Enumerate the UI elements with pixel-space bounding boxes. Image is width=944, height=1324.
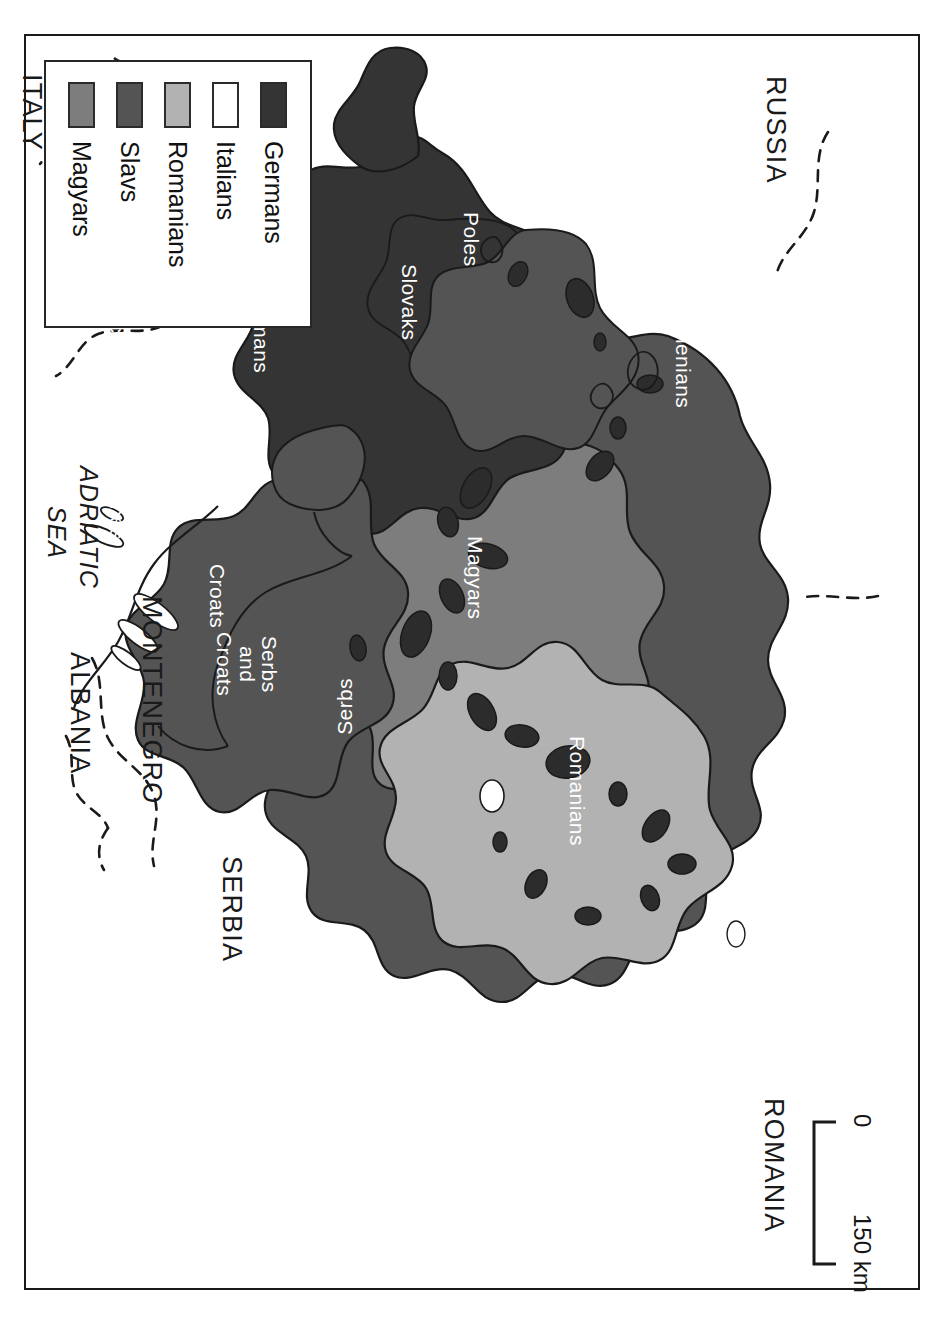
country-label-italy: ITALY (17, 74, 46, 151)
scale-bar-start-label: 0 (848, 1114, 876, 1127)
legend-swatch-slavs (116, 82, 143, 128)
ethnic-label-serbs: Serbs (334, 678, 356, 735)
country-label-romania: ROMANIA (759, 1098, 788, 1232)
legend-row-italians[interactable]: Italians (211, 82, 240, 220)
ethnic-label-slovenes: Slovenes (106, 450, 128, 540)
legend-row-germans[interactable]: Germans (259, 82, 288, 244)
legend-label-italians: Italians (211, 141, 240, 220)
ethnic-label-romanians: Romanians (566, 736, 588, 846)
legend-row-magyars[interactable]: Magyars (67, 82, 96, 237)
legend-label-slavs: Slavs (115, 141, 144, 202)
scale-bar-graphic (790, 1118, 840, 1268)
country-label-russia: RUSSIA (761, 76, 790, 184)
region-germans-tyrol (334, 48, 427, 172)
legend-label-romanians: Romanians (163, 141, 192, 267)
rotated-map-canvas: RUSSIA ROMANIA SERBIA MONTENEGRO ALBANIA… (26, 36, 918, 1288)
enclave-white (727, 921, 745, 947)
map-legend: Germans Italians Romanians Slavs Magyars (44, 60, 312, 328)
country-label-serbia: SERBIA (217, 856, 246, 962)
ethnic-label-poles: Poles (460, 212, 482, 267)
ethnographic-map-page: RUSSIA ROMANIA SERBIA MONTENEGRO ALBANIA… (0, 0, 944, 1324)
country-label-albania: ALBANIA (65, 652, 94, 774)
ethnic-label-ruthenians: Ruthenians (672, 298, 694, 408)
legend-row-romanians[interactable]: Romanians (163, 82, 192, 267)
ethnic-label-croats: Croats (206, 564, 228, 628)
enclave-german (594, 333, 606, 351)
ethnic-label-serbs-and-croats: Serbs and Croats (213, 632, 280, 696)
legend-swatch-magyars (68, 82, 95, 128)
legend-label-germans: Germans (259, 141, 288, 244)
legend-label-magyars: Magyars (67, 141, 96, 237)
map-frame: RUSSIA ROMANIA SERBIA MONTENEGRO ALBANIA… (24, 34, 920, 1290)
scale-bar: 0 150 km (790, 1118, 876, 1268)
ethnic-label-slovaks: Slovaks (398, 264, 420, 340)
country-label-montenegro: MONTENEGRO (137, 596, 166, 805)
legend-swatch-germans (260, 82, 287, 128)
sea-label-adriatic-line1: ADRIATIC (76, 466, 103, 589)
legend-swatch-romanians (164, 82, 191, 128)
legend-row-slavs[interactable]: Slavs (115, 82, 144, 202)
legend-swatch-italians (212, 82, 239, 128)
ethnic-label-magyars: Magyars (464, 536, 486, 619)
scale-bar-end-label: 150 km (848, 1214, 876, 1293)
enclave-white (480, 780, 504, 812)
sea-label-adriatic-line2: SEA (44, 506, 71, 559)
